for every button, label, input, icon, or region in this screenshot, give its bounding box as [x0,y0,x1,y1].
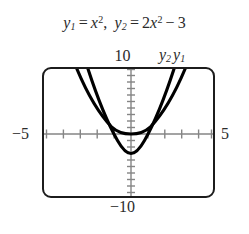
x-max-label: 5 [221,125,229,143]
equation-caption: y1=x2,y2=2x2−3 [0,14,249,32]
y2-constant: 3 [178,14,186,31]
y2-expression-base: x [150,14,157,31]
y1-expression-base: x [91,14,98,31]
minus-sign: − [166,14,175,31]
y2-subscript: 2 [122,21,127,32]
caption-comma: , [103,14,107,31]
plot-svg [44,69,213,196]
y-min-label: −10 [0,198,247,216]
equals-sign-2: = [130,14,139,31]
y-max-label: 10 [0,47,247,65]
y2-coefficient: 2 [142,14,150,31]
graph-figure: y1=x2,y2=2x2−3 [0,0,249,234]
y2-variable: y [114,14,121,31]
curve-label-y1-subscript: 1 [180,53,185,64]
y1-subscript: 1 [71,21,76,32]
y2-expression-exponent: 2 [158,14,163,25]
plot-area [44,69,213,196]
curve-label-y2-subscript: 2 [166,53,171,64]
y1-variable: y [63,14,70,31]
equals-sign-1: = [79,14,88,31]
curve-legend: y2y1 [159,46,185,64]
x-min-label: −5 [12,125,29,143]
